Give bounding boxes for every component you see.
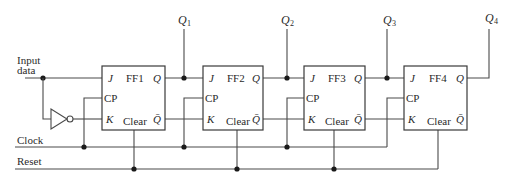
inverter-triangle-icon — [51, 109, 67, 129]
q-pin-label: Q — [153, 72, 161, 84]
k-pin-label: K — [206, 113, 215, 125]
clock-label: Clock — [17, 134, 44, 146]
qbar-pin-label: Q̄ — [354, 113, 362, 125]
k-pin-label: K — [407, 113, 416, 125]
svg-text:1: 1 — [187, 19, 191, 28]
clear-pin-label: Clear — [427, 115, 451, 127]
cp-pin-label: CP — [306, 92, 319, 104]
flipflop-ff1: J FF1 Q CP K Clear Q̄ — [102, 66, 165, 130]
k-pin-label: K — [307, 113, 316, 125]
clear-pin-label: Clear — [123, 115, 147, 127]
qbar-pin-label: Q̄ — [456, 113, 464, 125]
ff-name: FF4 — [429, 72, 447, 84]
qbar-pin-label: Q̄ — [153, 113, 161, 125]
flipflop-ff2: J FF2 Q CP K Clear Q̄ — [203, 66, 263, 130]
cp-pin-label: CP — [205, 92, 218, 104]
q-pin-label: Q — [354, 72, 362, 84]
output-q4-label: Q 4 — [485, 11, 498, 26]
svg-text:Q: Q — [281, 13, 290, 27]
svg-text:4: 4 — [494, 17, 498, 26]
output-q1-label: Q 1 — [178, 13, 191, 28]
cp-pin-label: CP — [406, 92, 419, 104]
q-pin-label: Q — [252, 72, 260, 84]
reset-wire — [15, 130, 438, 172]
qbar-pin-label: Q̄ — [252, 113, 260, 125]
clear-pin-label: Clear — [226, 115, 250, 127]
svg-text:Q: Q — [178, 13, 187, 27]
cp-pin-label: CP — [104, 92, 117, 104]
shift-register-diagram: Input data Clock Reset — [0, 0, 510, 181]
svg-text:3: 3 — [392, 19, 396, 28]
q-pin-label: Q — [456, 72, 464, 84]
flipflop-ff3: J FF3 Q CP K Clear Q̄ — [304, 66, 365, 130]
ff-name: FF3 — [328, 72, 346, 84]
input-data-wire — [25, 75, 102, 119]
clear-pin-label: Clear — [325, 115, 349, 127]
input-data-label-2: data — [17, 64, 35, 76]
output-q2-label: Q 2 — [281, 13, 294, 28]
svg-text:2: 2 — [290, 19, 294, 28]
svg-text:Q: Q — [383, 13, 392, 27]
ff-name: FF1 — [126, 72, 144, 84]
ff-name: FF2 — [227, 72, 245, 84]
svg-text:Q: Q — [485, 11, 494, 25]
not-gate — [51, 109, 102, 129]
reset-label: Reset — [17, 155, 41, 167]
output-q3-label: Q 3 — [383, 13, 396, 28]
flipflop-ff4: J FF4 Q CP K Clear Q̄ — [404, 66, 467, 130]
k-pin-label: K — [105, 113, 114, 125]
